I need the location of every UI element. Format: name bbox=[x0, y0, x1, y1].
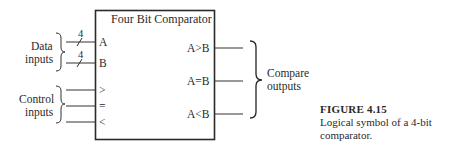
data-inputs-label-line1: Data bbox=[31, 40, 53, 53]
output-a-lt-b: A<B bbox=[187, 108, 209, 121]
output-a-gt-b: A>B bbox=[187, 42, 209, 55]
pin-lt: < bbox=[99, 116, 106, 129]
data-inputs-label-line2: inputs bbox=[25, 53, 53, 66]
outputs-brace-icon bbox=[250, 41, 262, 118]
block-title: Four Bit Comparator bbox=[111, 13, 212, 26]
bus-width-b: 4 bbox=[78, 48, 83, 61]
pin-gt: > bbox=[99, 84, 106, 97]
figure-number: FIGURE 4.15 bbox=[320, 103, 387, 115]
caption-line2: comparator. bbox=[320, 129, 372, 142]
control-inputs-label-line2: inputs bbox=[25, 106, 53, 119]
pin-a: A bbox=[99, 36, 107, 49]
bus-width-a: 4 bbox=[78, 27, 83, 40]
pin-b: B bbox=[99, 57, 107, 70]
outputs-label-line2: outputs bbox=[267, 80, 301, 93]
outputs-label-line1: Compare bbox=[267, 67, 309, 80]
output-a-eq-b: A=B bbox=[187, 75, 209, 88]
caption-line1: Logical symbol of a 4-bit bbox=[320, 116, 432, 129]
pin-eq: = bbox=[99, 100, 106, 113]
control-inputs-brace-icon bbox=[56, 86, 65, 123]
data-inputs-brace-icon bbox=[56, 33, 65, 71]
control-inputs-label-line1: Control bbox=[19, 93, 54, 106]
diagram-lines bbox=[0, 0, 450, 153]
